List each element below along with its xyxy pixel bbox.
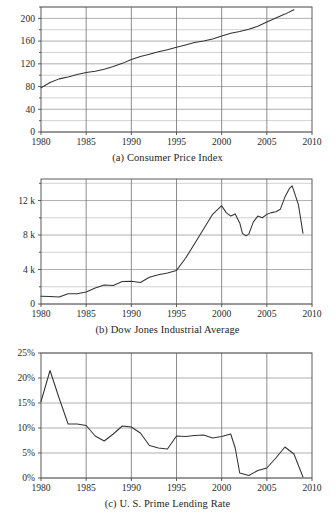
cpi-x-axis-labels: 1980198519901995200020052010 bbox=[31, 132, 321, 147]
cpi-chart-svg: 04080120160200 1980198519901995200020052… bbox=[0, 0, 335, 152]
djia-chart-svg: 04 k8 k12 k 1980198519901995200020052010 bbox=[0, 172, 335, 324]
svg-text:2000: 2000 bbox=[212, 308, 231, 319]
svg-text:12 k: 12 k bbox=[18, 195, 35, 206]
svg-text:1990: 1990 bbox=[122, 136, 141, 147]
svg-text:1980: 1980 bbox=[31, 482, 50, 493]
svg-text:120: 120 bbox=[21, 58, 36, 69]
svg-text:1985: 1985 bbox=[77, 308, 96, 319]
svg-text:1985: 1985 bbox=[77, 482, 96, 493]
svg-text:10%: 10% bbox=[17, 422, 35, 433]
svg-text:2010: 2010 bbox=[302, 308, 321, 319]
svg-text:2005: 2005 bbox=[257, 308, 276, 319]
svg-text:2000: 2000 bbox=[212, 482, 231, 493]
svg-text:80: 80 bbox=[25, 81, 35, 92]
svg-text:160: 160 bbox=[21, 35, 36, 46]
svg-text:1995: 1995 bbox=[167, 482, 186, 493]
djia-x-axis-labels: 1980198519901995200020052010 bbox=[31, 304, 321, 319]
svg-text:4 k: 4 k bbox=[23, 264, 35, 275]
svg-text:40: 40 bbox=[25, 104, 35, 115]
svg-text:1985: 1985 bbox=[77, 136, 96, 147]
svg-text:1990: 1990 bbox=[122, 482, 141, 493]
prime-y-axis-labels: 0%5%10%15%20%25% bbox=[17, 347, 41, 483]
svg-text:2010: 2010 bbox=[302, 482, 321, 493]
prime-chart-svg: 0%5%10%15%20%25% 19801985199019952000200… bbox=[0, 346, 335, 498]
svg-text:2000: 2000 bbox=[212, 136, 231, 147]
prime-x-axis-labels: 1980198519901995200020052010 bbox=[31, 478, 321, 493]
svg-text:8 k: 8 k bbox=[23, 229, 35, 240]
chart-panel-dow-jones: 04 k8 k12 k 1980198519901995200020052010… bbox=[0, 172, 335, 344]
svg-text:1995: 1995 bbox=[167, 136, 186, 147]
svg-text:25%: 25% bbox=[17, 347, 35, 358]
svg-text:1980: 1980 bbox=[31, 136, 50, 147]
chart-panel-consumer-price-index: 04080120160200 1980198519901995200020052… bbox=[0, 0, 335, 170]
caption-dow-jones: (b) Dow Jones Industrial Average bbox=[0, 324, 335, 335]
caption-consumer-price-index: (a) Consumer Price Index bbox=[0, 152, 335, 163]
svg-text:5%: 5% bbox=[22, 447, 35, 458]
three-panel-figure: 04080120160200 1980198519901995200020052… bbox=[0, 0, 335, 525]
svg-text:200: 200 bbox=[21, 13, 36, 24]
djia-y-axis-labels: 04 k8 k12 k bbox=[18, 183, 41, 309]
svg-text:1980: 1980 bbox=[31, 308, 50, 319]
svg-text:2010: 2010 bbox=[302, 136, 321, 147]
cpi-y-axis-labels: 04080120160200 bbox=[21, 7, 41, 137]
prime-gridlines bbox=[41, 353, 312, 478]
cpi-data-line bbox=[41, 10, 294, 88]
caption-prime-lending-rate: (c) U. S. Prime Lending Rate bbox=[0, 498, 335, 509]
svg-text:15%: 15% bbox=[17, 397, 35, 408]
djia-data-line bbox=[41, 186, 303, 297]
svg-text:2005: 2005 bbox=[257, 482, 276, 493]
prime-data-line bbox=[41, 371, 303, 478]
svg-text:1990: 1990 bbox=[122, 308, 141, 319]
svg-text:2005: 2005 bbox=[257, 136, 276, 147]
chart-panel-prime-lending-rate: 0%5%10%15%20%25% 19801985199019952000200… bbox=[0, 346, 335, 521]
djia-gridlines bbox=[41, 179, 312, 304]
svg-text:20%: 20% bbox=[17, 372, 35, 383]
cpi-gridlines bbox=[41, 7, 312, 132]
svg-text:1995: 1995 bbox=[167, 308, 186, 319]
